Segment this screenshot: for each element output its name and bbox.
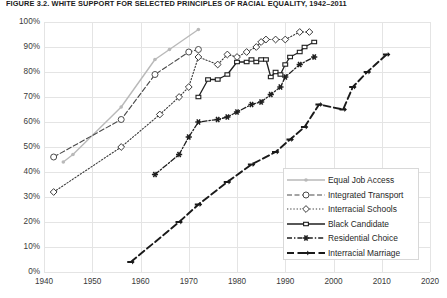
data-point-marker-open-diamond — [272, 36, 279, 43]
data-point-marker-open-circle — [118, 117, 124, 123]
legend-item-label: Equal Job Access — [328, 175, 394, 185]
legend-item[interactable]: Interracial Schools — [284, 202, 418, 217]
series-line — [54, 50, 199, 158]
data-point-marker-filled-star — [303, 236, 309, 241]
y-axis-tick-label: 90% — [0, 43, 40, 51]
y-axis-tick-label: 20% — [0, 218, 40, 226]
data-point-marker-filled-square — [259, 58, 264, 61]
legend-item[interactable]: Equal Job Access — [284, 173, 418, 188]
series-residential-choice — [152, 54, 317, 177]
x-axis-tick-label: 1980 — [216, 277, 258, 286]
data-point-marker-open-circle — [195, 47, 201, 53]
data-point-marker-filled-square — [215, 78, 220, 81]
legend-marker-filled-star-icon — [284, 231, 328, 245]
x-axis-tick-label: 2020 — [409, 277, 447, 286]
legend-marker-filled-square-icon — [284, 217, 328, 231]
legend-item-label: Interracial Marriage — [328, 248, 400, 258]
data-point-marker-filled-square — [254, 60, 259, 63]
data-point-marker-dot — [62, 160, 66, 164]
series-line — [54, 32, 310, 192]
data-point-marker-filled-square — [225, 73, 230, 76]
data-point-marker-dot — [197, 28, 201, 32]
data-point-marker-dot — [168, 48, 172, 52]
y-axis-tick-label: 50% — [0, 143, 40, 151]
data-point-marker-filled-square — [249, 58, 254, 61]
x-axis-tick-label: 1960 — [120, 277, 162, 286]
data-point-marker-filled-star — [311, 54, 317, 59]
grid-line-horizontal — [44, 272, 430, 273]
legend-item-label: Interracial Schools — [328, 204, 397, 214]
legend-item-label: Residential Choice — [328, 233, 398, 243]
y-axis-tick-label: 40% — [0, 168, 40, 176]
y-axis-tick-label: 30% — [0, 193, 40, 201]
data-point-marker-filled-star — [186, 134, 192, 139]
data-point-marker-open-diamond — [50, 189, 57, 196]
data-point-marker-open-diamond — [303, 206, 310, 213]
legend-item[interactable]: Residential Choice — [284, 231, 418, 246]
data-point-marker-open-diamond — [296, 29, 303, 36]
legend-item[interactable]: Black Candidate — [284, 217, 418, 232]
chart-title: FIGURE 3.2. WHITE SUPPORT FOR SELECTED P… — [6, 0, 444, 8]
data-point-marker-filled-square — [273, 70, 278, 73]
data-point-marker-filled-square — [304, 222, 309, 225]
data-point-marker-filled-star — [195, 119, 201, 124]
data-point-marker-filled-square — [244, 60, 249, 63]
data-point-marker-filled-square — [196, 95, 201, 98]
x-axis-tick-label: 1940 — [23, 277, 65, 286]
x-axis-tick-label: 2010 — [361, 277, 403, 286]
data-point-marker-filled-square — [268, 75, 273, 78]
data-point-marker-filled-star — [215, 117, 221, 122]
data-point-marker-filled-square — [302, 45, 307, 48]
x-axis-tick-label: 1970 — [168, 277, 210, 286]
data-point-marker-open-diamond — [195, 54, 202, 61]
x-axis-tick-label: 1990 — [264, 277, 306, 286]
data-point-marker-open-diamond — [243, 49, 250, 56]
data-point-marker-open-circle — [303, 192, 309, 198]
data-point-marker-open-circle — [186, 49, 192, 55]
x-axis-tick-label: 1950 — [71, 277, 113, 286]
legend-item-label: Black Candidate — [328, 219, 389, 229]
data-point-marker-filled-star — [224, 114, 230, 119]
data-point-marker-filled-square — [264, 58, 269, 61]
legend-marker-filled-arrow-icon — [284, 246, 328, 260]
data-point-marker-filled-square — [312, 40, 317, 43]
data-point-marker-filled-square — [278, 73, 283, 76]
legend-item[interactable]: Interracial Marriage — [284, 246, 418, 261]
grid-line-vertical — [430, 22, 431, 272]
legend-item-label: Integrated Transport — [328, 190, 403, 200]
data-point-marker-open-diamond — [282, 36, 289, 43]
data-point-marker-dot — [71, 153, 75, 157]
legend-marker-open-diamond-icon — [284, 202, 328, 216]
data-point-marker-open-circle — [51, 154, 57, 160]
data-point-marker-filled-arrow — [302, 250, 309, 255]
y-axis-tick-label: 80% — [0, 68, 40, 76]
data-point-marker-open-circle — [152, 72, 158, 78]
data-point-marker-dot — [119, 105, 123, 109]
data-point-marker-filled-star — [234, 109, 240, 114]
data-point-marker-filled-square — [288, 55, 293, 58]
y-axis-tick-label: 70% — [0, 93, 40, 101]
legend-marker-dot-icon — [284, 173, 328, 187]
y-axis-tick-label: 10% — [0, 243, 40, 251]
data-point-marker-filled-square — [235, 60, 240, 63]
data-point-marker-filled-arrow — [315, 102, 322, 107]
data-point-marker-dot — [153, 58, 157, 62]
x-axis-tick-label: 2000 — [313, 277, 355, 286]
chart-legend: Equal Job AccessIntegrated TransportInte… — [283, 168, 419, 260]
data-point-marker-open-diamond — [306, 29, 313, 36]
data-point-marker-dot — [304, 178, 308, 182]
series-interracial-schools — [50, 29, 313, 196]
data-point-marker-open-diamond — [234, 54, 241, 61]
legend-item[interactable]: Integrated Transport — [284, 188, 418, 203]
y-axis-tick-label: 60% — [0, 118, 40, 126]
data-point-marker-filled-square — [206, 78, 211, 81]
series-line — [155, 57, 314, 175]
legend-marker-open-circle-icon — [284, 188, 328, 202]
data-point-marker-filled-square — [283, 63, 288, 66]
data-point-marker-filled-square — [297, 50, 302, 53]
y-axis-tick-label: 0% — [0, 268, 40, 276]
y-axis-tick-label: 100% — [0, 18, 40, 26]
data-point-marker-filled-star — [248, 102, 254, 107]
figure-container: FIGURE 3.2. WHITE SUPPORT FOR SELECTED P… — [0, 0, 447, 298]
